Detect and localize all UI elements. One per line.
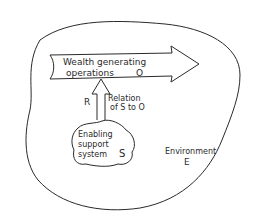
- support-label-line2: support: [78, 141, 109, 149]
- support-symbol: S: [119, 149, 125, 159]
- support-label-line3: system: [78, 151, 107, 159]
- environment-symbol: E: [184, 158, 190, 167]
- operations-label-line2: operations: [66, 69, 114, 78]
- operations-label-line1: Wealth generating: [63, 58, 146, 67]
- relation-symbol: R: [84, 98, 90, 107]
- diagram-canvas: Wealth generating operations O R Relatio…: [0, 0, 253, 219]
- support-label-line1: Enabling: [78, 131, 113, 139]
- environment-boundary: [26, 21, 240, 209]
- environment-label: Environment: [165, 148, 216, 156]
- operations-symbol: O: [136, 69, 143, 78]
- relation-label-line2: of S to O: [110, 104, 145, 112]
- relation-label-line1: Relation: [108, 95, 141, 103]
